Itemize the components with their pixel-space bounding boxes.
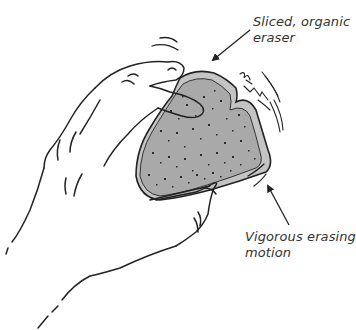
eraser-annotation-line-1: Sliced, organic xyxy=(253,14,350,30)
arrow-eraser-icon xyxy=(213,30,250,60)
motion-annotation-line-2: motion xyxy=(245,245,356,261)
motion-annotation-line-1: Vigorous erasing xyxy=(245,229,356,245)
eraser-annotation: Sliced, organic eraser xyxy=(253,14,350,46)
eraser-annotation-line-2: eraser xyxy=(253,30,350,46)
motion-annotation: Vigorous erasing motion xyxy=(245,229,356,261)
motion-lines-top-icon xyxy=(152,38,178,51)
eraser-icon xyxy=(136,71,271,200)
arrow-motion-icon xyxy=(268,186,289,225)
